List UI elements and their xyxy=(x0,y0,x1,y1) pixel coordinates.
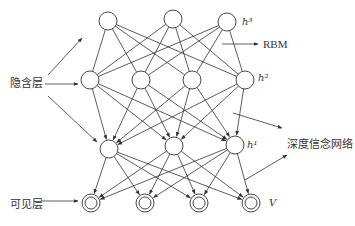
h1-node xyxy=(165,137,183,155)
pointer-arrows xyxy=(42,38,287,201)
h2-node xyxy=(81,71,99,89)
hidden-layer-label: 隐含层 xyxy=(10,74,43,90)
edges xyxy=(92,24,248,199)
dbn-diagram: 隐含层 可见层 RBM 深度信念网络 h³ h² h¹ V xyxy=(0,0,355,226)
nodes xyxy=(81,10,260,212)
h2-label: h² xyxy=(258,72,268,83)
h3-node xyxy=(218,13,236,31)
h2-node xyxy=(132,71,150,89)
h3-node xyxy=(99,12,117,30)
visible-layer-label: 可见层 xyxy=(10,195,43,211)
dbn-label: 深度信念网络 xyxy=(287,135,353,151)
network-graph xyxy=(0,0,355,226)
rbm-label: RBM xyxy=(263,38,287,50)
h2-node xyxy=(236,71,254,89)
h3-label: h³ xyxy=(242,16,252,27)
h1-node xyxy=(226,136,244,154)
h1-node xyxy=(100,140,118,158)
h2-node xyxy=(183,71,201,89)
v-label: V xyxy=(269,197,276,208)
h1-label: h¹ xyxy=(247,139,257,150)
h3-node xyxy=(164,10,182,28)
